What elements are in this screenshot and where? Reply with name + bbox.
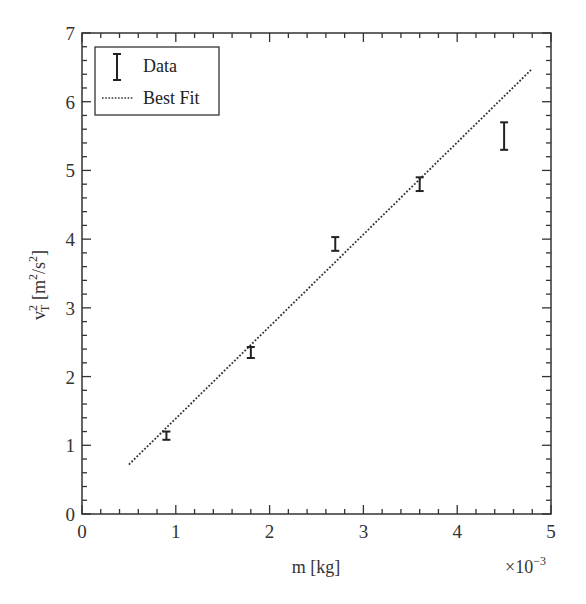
best-fit-line: [129, 69, 532, 465]
y-axis-label: v2T [m2/s2]: [26, 250, 52, 320]
x-tick-label: 2: [265, 521, 275, 542]
y-tick-label: 6: [66, 92, 76, 113]
chart: 012345 01234567 Data Best Fit m [kg] ×10…: [0, 0, 586, 604]
y-tick-label: 2: [66, 367, 76, 388]
errorbar-point: [416, 177, 424, 191]
errorbar-point: [162, 432, 170, 440]
y-tick-label: 0: [66, 504, 76, 525]
x-multiplier-base: ×10: [505, 557, 533, 577]
legend: Data Best Fit: [95, 47, 219, 115]
y-tick-label: 7: [66, 23, 76, 44]
x-axis-multiplier: ×10−3: [505, 554, 546, 577]
x-tick-label: 3: [359, 521, 369, 542]
y-tick-label: 4: [66, 229, 76, 250]
y-label-unit: /s: [29, 262, 49, 274]
legend-label-data: Data: [143, 56, 177, 76]
y-tick-label: 3: [66, 298, 76, 319]
y-tick-label: 1: [66, 435, 76, 456]
x-tick-label: 5: [546, 521, 556, 542]
x-multiplier-exponent: −3: [533, 554, 546, 568]
x-tick-label: 4: [452, 521, 462, 542]
x-axis-label: m [kg]: [292, 557, 341, 577]
x-tick-label: 0: [77, 521, 87, 542]
legend-label-best-fit: Best Fit: [143, 88, 200, 108]
y-tick-labels: 01234567: [66, 23, 76, 525]
data-errorbars: [162, 122, 508, 439]
y-label-unit: [m: [29, 280, 49, 305]
x-tick-label: 1: [171, 521, 181, 542]
y-label-unit: ]: [29, 250, 49, 256]
errorbar-point: [500, 122, 508, 149]
y-tick-label: 5: [66, 160, 76, 181]
errorbar-point: [331, 237, 339, 251]
x-tick-labels: 012345: [77, 521, 556, 542]
